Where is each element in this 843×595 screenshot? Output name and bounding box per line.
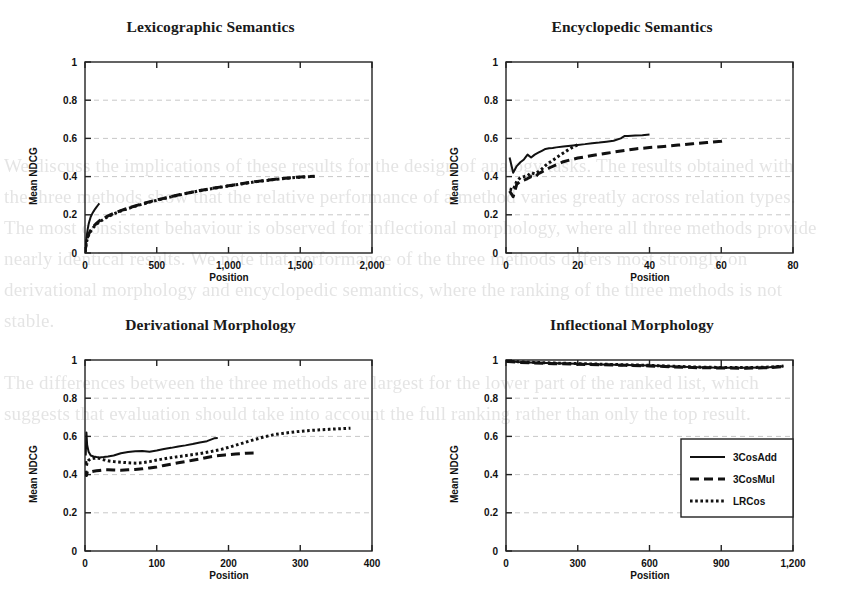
svg-text:0.6: 0.6 — [484, 431, 498, 442]
plot-area: 00.20.40.60.81020406080 — [421, 0, 843, 298]
svg-text:0.6: 0.6 — [63, 431, 77, 442]
svg-text:1,500: 1,500 — [288, 260, 313, 271]
svg-text:100: 100 — [148, 558, 165, 569]
panel-lexicographic-semantics: Lexicographic Semantics Mean NDCG Positi… — [0, 0, 421, 298]
svg-text:0.4: 0.4 — [63, 469, 77, 480]
svg-text:1: 1 — [71, 355, 77, 366]
svg-text:0: 0 — [71, 248, 77, 259]
svg-text:20: 20 — [572, 260, 584, 271]
svg-text:0: 0 — [71, 546, 77, 557]
svg-text:1: 1 — [492, 57, 498, 68]
svg-text:0.4: 0.4 — [484, 171, 498, 182]
svg-text:0.4: 0.4 — [63, 171, 77, 182]
svg-text:3CosMul: 3CosMul — [733, 474, 775, 485]
svg-text:0: 0 — [492, 248, 498, 259]
plot-area: 00.20.40.60.8103006009001,2003CosAdd3Cos… — [421, 298, 843, 595]
svg-text:900: 900 — [713, 558, 730, 569]
svg-text:40: 40 — [644, 260, 656, 271]
svg-text:500: 500 — [148, 260, 165, 271]
svg-text:0.8: 0.8 — [63, 393, 77, 404]
svg-text:0.8: 0.8 — [484, 95, 498, 106]
svg-text:300: 300 — [292, 558, 309, 569]
svg-text:0.4: 0.4 — [484, 469, 498, 480]
svg-text:0.6: 0.6 — [484, 133, 498, 144]
svg-text:0: 0 — [503, 558, 509, 569]
svg-text:0.8: 0.8 — [63, 95, 77, 106]
figure-panel-grid: Lexicographic Semantics Mean NDCG Positi… — [0, 0, 843, 595]
svg-text:200: 200 — [220, 558, 237, 569]
svg-text:0.2: 0.2 — [484, 209, 498, 220]
svg-text:1,200: 1,200 — [780, 558, 805, 569]
svg-text:400: 400 — [364, 558, 381, 569]
svg-text:0.6: 0.6 — [63, 133, 77, 144]
svg-text:600: 600 — [641, 558, 658, 569]
svg-text:80: 80 — [787, 260, 799, 271]
svg-text:0: 0 — [503, 260, 509, 271]
plot-area: 00.20.40.60.810100200300400 — [0, 298, 421, 595]
panel-inflectional-morphology: Inflectional Morphology Mean NDCG Positi… — [421, 298, 843, 595]
svg-text:300: 300 — [569, 558, 586, 569]
svg-text:1: 1 — [492, 355, 498, 366]
svg-text:1: 1 — [71, 57, 77, 68]
panel-derivational-morphology: Derivational Morphology Mean NDCG Positi… — [0, 298, 421, 595]
svg-text:0: 0 — [492, 546, 498, 557]
svg-text:LRCos: LRCos — [733, 496, 766, 507]
svg-text:0.2: 0.2 — [63, 209, 77, 220]
svg-text:60: 60 — [716, 260, 728, 271]
svg-text:2,000: 2,000 — [359, 260, 384, 271]
svg-text:0.8: 0.8 — [484, 393, 498, 404]
svg-text:3CosAdd: 3CosAdd — [733, 452, 777, 463]
svg-text:0: 0 — [82, 558, 88, 569]
panel-encyclopedic-semantics: Encyclopedic Semantics Mean NDCG Positio… — [421, 0, 843, 298]
svg-text:0.2: 0.2 — [63, 507, 77, 518]
svg-text:1,000: 1,000 — [216, 260, 241, 271]
svg-text:0.2: 0.2 — [484, 507, 498, 518]
plot-area: 00.20.40.60.8105001,0001,5002,000 — [0, 0, 421, 298]
svg-text:0: 0 — [82, 260, 88, 271]
